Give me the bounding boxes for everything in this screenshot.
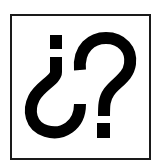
- inverted-question-curve: [31, 57, 80, 132]
- question-mark-icon: [80, 38, 130, 138]
- question-icon-canvas: ¿?: [0, 0, 158, 161]
- inverted-question-mark-icon: [31, 35, 80, 132]
- question-dot: [97, 123, 110, 138]
- question-curve: [80, 38, 130, 116]
- inverted-question-dot: [50, 35, 62, 49]
- question-marks-icon: [0, 0, 158, 161]
